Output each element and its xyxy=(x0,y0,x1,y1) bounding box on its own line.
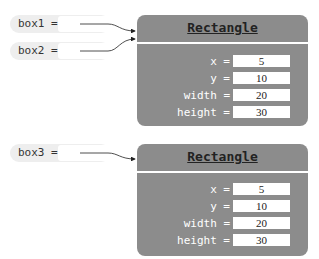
reference-arrows xyxy=(0,0,319,259)
arrow-box1 xyxy=(80,24,135,31)
arrow-box3 xyxy=(80,153,135,159)
arrow-box2 xyxy=(80,39,135,51)
